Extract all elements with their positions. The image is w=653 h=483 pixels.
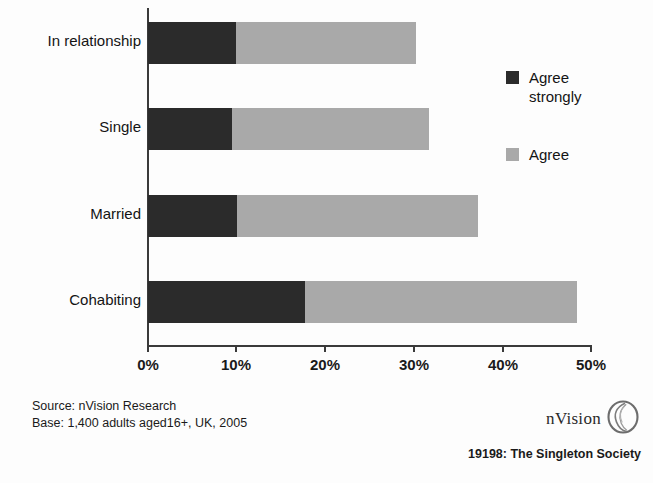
category-label-married: Married xyxy=(11,205,141,222)
source-line: Source: nVision Research xyxy=(32,398,247,415)
category-label-single: Single xyxy=(11,118,141,135)
nvision-oval-logo-icon xyxy=(605,400,641,438)
bar-segment-agree-strongly xyxy=(148,108,232,150)
category-axis-labels: In relationship Single Married Cohabitin… xyxy=(8,0,141,347)
x-tick-label-10: 10% xyxy=(221,356,251,373)
x-tick-label-20: 20% xyxy=(310,356,340,373)
x-axis-line xyxy=(147,345,592,347)
bar-segment-agree xyxy=(305,281,577,323)
base-line: Base: 1,400 adults aged16+, UK, 2005 xyxy=(32,415,247,432)
legend-swatch-icon xyxy=(506,71,519,84)
x-tick-30 xyxy=(413,345,415,352)
source-note: Source: nVision Research Base: 1,400 adu… xyxy=(32,398,247,432)
x-tick-label-0: 0% xyxy=(137,356,159,373)
legend-item-agree: Agree xyxy=(506,145,569,164)
legend-label-agree-strongly: Agree strongly xyxy=(529,68,582,106)
stacked-bar-chart: In relationship Single Married Cohabitin… xyxy=(0,0,653,483)
x-tick-label-40: 40% xyxy=(488,356,518,373)
brand-name: nVision xyxy=(546,409,601,429)
category-label-in-relationship: In relationship xyxy=(11,32,141,49)
x-tick-40 xyxy=(502,345,504,352)
brand-block: nVision 19198: The Singleton Society xyxy=(468,400,641,461)
bar-segment-agree xyxy=(232,108,429,150)
category-label-cohabiting: Cohabiting xyxy=(11,291,141,308)
x-tick-label-30: 30% xyxy=(399,356,429,373)
legend-swatch-icon xyxy=(506,148,519,161)
x-tick-10 xyxy=(235,345,237,352)
legend-item-agree-strongly: Agree strongly xyxy=(506,68,582,106)
bar-segment-agree-strongly xyxy=(148,195,237,237)
bar-segment-agree-strongly xyxy=(148,22,236,64)
x-tick-label-50: 50% xyxy=(576,356,606,373)
bar-segment-agree xyxy=(237,195,479,237)
chart-caption: 19198: The Singleton Society xyxy=(468,447,641,461)
legend-label-agree: Agree xyxy=(529,145,569,164)
bar-segment-agree xyxy=(236,22,416,64)
brand-row: nVision xyxy=(468,400,641,438)
bar-segment-agree-strongly xyxy=(148,281,305,323)
x-tick-20 xyxy=(324,345,326,352)
x-tick-0 xyxy=(147,345,149,352)
plot-area xyxy=(148,8,591,345)
x-tick-50 xyxy=(590,345,592,352)
